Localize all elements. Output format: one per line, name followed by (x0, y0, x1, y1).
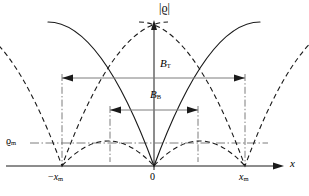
x-tick-left-subscript: m (58, 175, 63, 182)
x-tick-label-left: −xm (48, 172, 63, 183)
bt-symbol: B (160, 57, 167, 69)
bt-label: BT (160, 58, 171, 70)
bt-subscript: T (167, 62, 171, 69)
y-axis-label: |ϱ| (159, 2, 170, 14)
rho-m-subscript: m (11, 139, 16, 146)
bb-arrowhead-right (187, 107, 198, 114)
bb-label: BB (150, 89, 161, 101)
origin-label: 0 (150, 172, 155, 182)
x-axis-label: x (290, 158, 295, 169)
bb-symbol: B (150, 88, 157, 100)
x-tick-label-right: xm (239, 172, 249, 183)
right-inner-arc-dashed (154, 141, 245, 166)
figure-container: |ϱ| x 0 −xm xm ϱm BT BB (0, 0, 309, 196)
bb-subscript: B (157, 93, 161, 100)
bt-arrowhead-left (62, 75, 73, 82)
left-parabola-dashed (0, 22, 168, 166)
bt-arrowhead-right (234, 75, 245, 82)
axis-group (6, 20, 284, 170)
rho-m-label: ϱm (6, 136, 16, 147)
left-inner-arc-dashed (62, 141, 154, 166)
x-tick-right-subscript: m (243, 175, 248, 182)
horizontal-axis-arrowhead (273, 163, 284, 170)
right-parabola-dashed (139, 22, 309, 166)
bb-arrowhead-left (110, 107, 121, 114)
